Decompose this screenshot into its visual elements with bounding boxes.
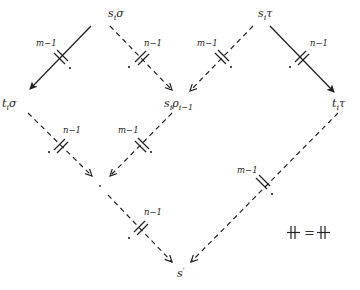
edge-label-m-1: m−1 bbox=[197, 38, 218, 48]
edge-label-n-1: n−1 bbox=[310, 38, 328, 48]
double-bar-tick-icon bbox=[287, 226, 300, 239]
edge-center-to-s-prime: n−1 bbox=[108, 195, 172, 262]
node-ti-tau: tiτ bbox=[332, 97, 346, 112]
edge-label-m-1: m−1 bbox=[36, 38, 57, 48]
edge-label-n-1: n−1 bbox=[144, 207, 162, 217]
edge-label-m-1: m−1 bbox=[118, 125, 139, 135]
edge-label-m-1: m−1 bbox=[237, 165, 258, 175]
edge-si-rho-to-center: m−1 bbox=[110, 113, 172, 176]
edge-ti-sigma-to-center: n−1 bbox=[28, 113, 92, 176]
node-si-tau: siτ bbox=[258, 7, 273, 22]
edge-si-sigma-to-ti-sigma: m−1 bbox=[30, 26, 91, 89]
commutative-diagram: siσ siτ tiσ siρi−1 tiτ s′ m−1 n−1 m−1 bbox=[0, 0, 360, 290]
edge-ti-tau-to-s-prime: m−1 bbox=[191, 113, 338, 262]
node-s-prime: s′ bbox=[177, 266, 185, 280]
equals-sign: = bbox=[304, 225, 315, 240]
double-bar-tick-icon bbox=[317, 226, 330, 239]
crossing-equivalence-legend: = bbox=[287, 225, 330, 240]
node-si-sigma: siσ bbox=[108, 7, 124, 22]
node-center-point bbox=[99, 185, 101, 187]
edge-label-n-1: n−1 bbox=[63, 125, 81, 135]
edge-label-n-1: n−1 bbox=[144, 38, 162, 48]
edge-si-sigma-to-si-rho: n−1 bbox=[110, 26, 172, 90]
node-si-rho: siρi−1 bbox=[164, 97, 193, 112]
node-ti-sigma: tiσ bbox=[2, 97, 17, 112]
edge-si-tau-to-ti-tau: n−1 bbox=[270, 26, 334, 92]
edge-si-tau-to-si-rho: m−1 bbox=[190, 26, 253, 91]
